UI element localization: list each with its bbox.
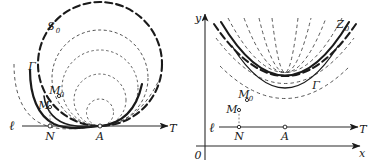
left-panel-group: S 0 Γ M 0 M N A ℓ T xyxy=(9,2,178,143)
math-figure: S 0 Γ M 0 M N A ℓ T xyxy=(0,0,373,167)
label-z0: Z xyxy=(335,18,344,31)
label-a-right: A xyxy=(280,130,289,143)
label-axis-y: y xyxy=(194,12,202,25)
point-a-marker-right xyxy=(283,125,287,129)
label-gamma-right: Γ xyxy=(311,79,320,92)
label-m-left: M xyxy=(37,99,50,112)
label-z0-subscript: 0 xyxy=(345,25,350,33)
parabola-inner-solid-right xyxy=(232,46,338,88)
label-s0-subscript: 0 xyxy=(56,27,61,35)
label-axis-x: x xyxy=(359,147,366,160)
circle-inner-1 xyxy=(87,99,114,126)
circle-inner-4 xyxy=(52,30,148,126)
label-line-l-left: ℓ xyxy=(9,118,15,133)
right-panel-group: Z 0 Γ M 0 M N A ℓ T y x 0 xyxy=(194,12,368,162)
label-n-left: N xyxy=(44,130,55,143)
label-a-left: A xyxy=(95,130,104,143)
point-n-marker-right xyxy=(237,125,240,128)
label-n-right: N xyxy=(233,130,244,143)
point-m-marker-right xyxy=(237,108,240,111)
label-m-right: M xyxy=(225,103,238,116)
label-m0-subscript-left: 0 xyxy=(60,91,65,99)
circle-inner-2 xyxy=(74,74,126,126)
point-n-marker xyxy=(48,124,52,128)
parabola-thin-1 xyxy=(272,18,298,73)
point-a-marker xyxy=(98,124,102,128)
label-gamma-left: Γ xyxy=(27,60,36,73)
figure-canvas: S 0 Γ M 0 M N A ℓ T xyxy=(0,0,373,167)
parabola-thin-2 xyxy=(259,18,311,73)
label-origin: 0 xyxy=(195,149,202,162)
label-m0-subscript-right: 0 xyxy=(249,95,254,103)
label-t-right: T xyxy=(359,123,368,136)
label-t-left: T xyxy=(169,122,178,135)
parabola-gamma-solid-right xyxy=(221,22,349,76)
label-line-l-right: ℓ xyxy=(209,120,215,135)
circle-s0 xyxy=(38,2,162,126)
label-s0: S xyxy=(47,20,55,33)
